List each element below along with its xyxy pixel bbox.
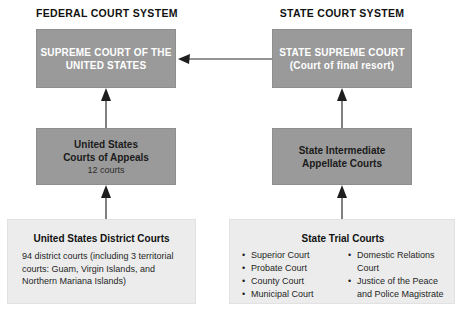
arrow-district-courts-to-appeals [98,185,114,219]
box-state-trial-courts[interactable]: State Trial Courts Superior Court Probat… [229,219,455,304]
state-trial-courts-title: State Trial Courts [242,232,444,245]
federal-court-system-title: FEDERAL COURT SYSTEM [36,7,176,19]
box-united-states-district-courts[interactable]: United States District Courts 94 distric… [7,219,196,304]
list-item: Probate Court [242,262,338,275]
box-state-supreme-court[interactable]: STATE SUPREME COURT (Court of final reso… [272,29,412,88]
state-supreme-court-line-2: (Court of final resort) [290,59,395,72]
box-state-intermediate-appellate-courts[interactable]: State Intermediate Appellate Courts [272,128,412,185]
state-trial-courts-column-left: Superior Court Probate Court County Cour… [242,249,338,301]
list-item: Domestic Relations [348,249,444,262]
state-trial-courts-column-right: Domestic Relations Court Justice of the … [348,249,444,301]
arrow-state-appellate-to-state-supreme [334,88,350,128]
list-item: County Court [242,275,338,288]
list-item: Superior Court [242,249,338,262]
list-item-continuation: Court [348,262,444,275]
court-system-diagram: FEDERAL COURT SYSTEM STATE COURT SYSTEM … [0,0,462,318]
state-supreme-court-line-1: STATE SUPREME COURT [279,46,405,59]
arrow-state-trial-to-state-appellate [334,185,350,219]
state-appellate-line-1: State Intermediate [299,144,386,157]
state-court-system-title: STATE COURT SYSTEM [272,7,412,19]
list-item: Justice of the Peace [348,275,444,288]
district-courts-title: United States District Courts [22,232,181,245]
courts-of-appeals-line-1: United States [74,138,138,151]
supreme-court-line-2: UNITED STATES [66,59,147,72]
arrow-state-supreme-to-federal-supreme [176,50,272,68]
courts-of-appeals-count: 12 courts [87,164,124,176]
list-item: Municipal Court [242,288,338,301]
courts-of-appeals-line-2: Courts of Appeals [63,151,149,164]
box-supreme-court-united-states[interactable]: SUPREME COURT OF THE UNITED STATES [36,29,176,88]
supreme-court-line-1: SUPREME COURT OF THE [40,46,171,59]
list-item-continuation: and Police Magistrate [348,288,444,301]
arrow-appeals-to-supreme-court [98,88,114,128]
state-trial-courts-lists: Superior Court Probate Court County Cour… [242,249,444,301]
box-united-states-courts-of-appeals[interactable]: United States Courts of Appeals 12 court… [36,128,176,185]
district-courts-body: 94 district courts (including 3 territor… [22,250,181,288]
state-appellate-line-2: Appellate Courts [302,157,382,170]
